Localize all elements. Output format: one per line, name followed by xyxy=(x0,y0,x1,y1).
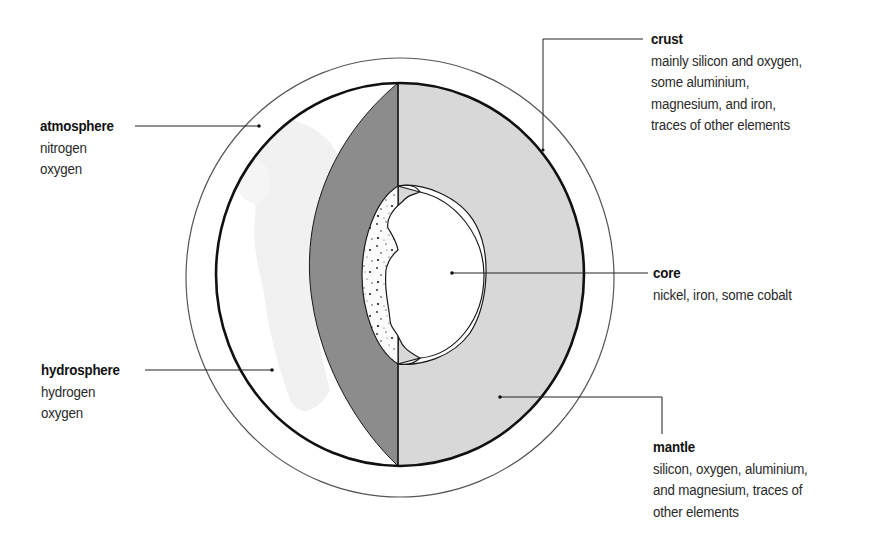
label-crust-line-2: some aluminium, xyxy=(651,71,802,93)
label-hydrosphere-line-2: oxygen xyxy=(41,402,120,424)
label-mantle-title: mantle xyxy=(653,436,808,458)
atmosphere-pointer-dot xyxy=(257,124,261,128)
crust-pointer-dot xyxy=(541,148,544,151)
label-hydrosphere-title: hydrosphere xyxy=(41,359,120,381)
mantle-pointer-dot xyxy=(498,395,502,399)
label-atmosphere-line-1: nitrogen xyxy=(40,137,114,159)
crust-leader xyxy=(543,39,643,150)
label-crust: crust mainly silicon and oxygen, some al… xyxy=(651,28,802,136)
label-hydrosphere: hydrosphere hydrogen oxygen xyxy=(41,359,120,424)
label-mantle-line-1: silicon, oxygen, aluminium, xyxy=(653,458,808,480)
label-crust-line-1: mainly silicon and oxygen, xyxy=(651,50,802,72)
label-atmosphere-title: atmosphere xyxy=(40,115,114,137)
label-crust-line-4: traces of other elements xyxy=(651,114,802,136)
label-mantle-line-3: other elements xyxy=(653,501,808,523)
hydrosphere-pointer-dot xyxy=(270,368,274,372)
label-mantle: mantle silicon, oxygen, aluminium, and m… xyxy=(653,436,808,522)
label-mantle-line-2: and magnesium, traces of xyxy=(653,479,808,501)
label-hydrosphere-line-1: hydrogen xyxy=(41,381,120,403)
core-pointer-dot xyxy=(450,271,454,275)
label-core: core nickel, iron, some cobalt xyxy=(653,262,792,305)
label-crust-title: crust xyxy=(651,28,802,50)
label-core-line-1: nickel, iron, some cobalt xyxy=(653,284,792,306)
label-core-title: core xyxy=(653,262,792,284)
label-atmosphere-line-2: oxygen xyxy=(40,158,114,180)
label-atmosphere: atmosphere nitrogen oxygen xyxy=(40,115,114,180)
label-crust-line-3: magnesium, and iron, xyxy=(651,93,802,115)
